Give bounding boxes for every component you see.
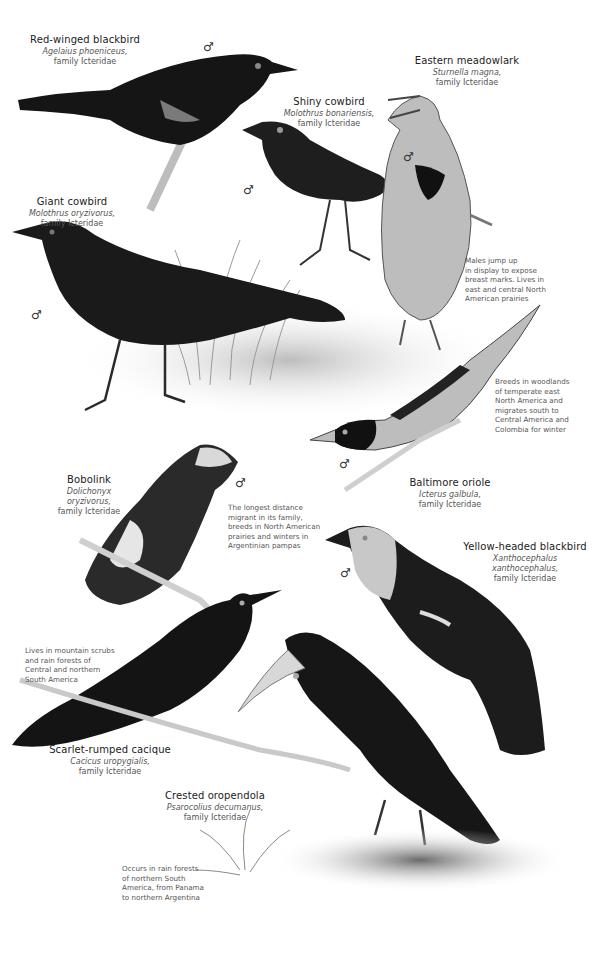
common-name: Crested oropendola <box>160 790 270 803</box>
scientific-name: Icterus galbula, <box>400 490 500 500</box>
family-name: family Icteridae <box>278 119 380 129</box>
common-name: Red-winged blackbird <box>30 34 140 47</box>
note-crested-oropendola: Occurs in rain forests of northern South… <box>122 864 204 902</box>
family-name: family Icteridae <box>30 57 140 67</box>
note-eastern-meadowlark: Males jump up in display to expose breas… <box>465 256 546 304</box>
male-symbol-icon: ♂ <box>340 566 351 580</box>
label-scarlet-rumped-cacique: Scarlet-rumped cacique Cacicus uropygial… <box>48 744 172 777</box>
male-symbol-icon: ♂ <box>31 308 42 322</box>
label-giant-cowbird: Giant cowbird Molothrus oryzivorus, fami… <box>22 196 122 229</box>
scientific-name: Xanthocephalus xanthocephalus, <box>460 554 590 574</box>
male-symbol-icon: ♂ <box>235 476 246 490</box>
male-symbol-icon: ♂ <box>339 457 350 471</box>
note-scarlet-rumped-cacique: Lives in mountain scrubs and rain forest… <box>25 646 115 684</box>
shiny-cowbird-illustration <box>242 121 388 265</box>
label-shiny-cowbird: Shiny cowbird Molothrus bonariensis, fam… <box>278 96 380 129</box>
scientific-name: Sturnella magna, <box>412 68 522 78</box>
common-name: Shiny cowbird <box>278 96 380 109</box>
common-name: Eastern meadowlark <box>412 55 522 68</box>
common-name: Yellow-headed blackbird <box>460 541 590 554</box>
family-name: family Icteridae <box>460 574 590 584</box>
male-symbol-icon: ♂ <box>243 183 254 197</box>
note-baltimore-oriole: Breeds in woodlands of temperate east No… <box>495 377 570 434</box>
male-symbol-icon: ♂ <box>403 150 414 164</box>
label-red-winged-blackbird: Red-winged blackbird Agelaius phoeniceus… <box>30 34 140 67</box>
common-name: Bobolink <box>44 474 134 487</box>
label-crested-oropendola: Crested oropendola Psarocolius decumanus… <box>160 790 270 823</box>
label-eastern-meadowlark: Eastern meadowlark Sturnella magna, fami… <box>412 55 522 88</box>
family-name: family Icteridae <box>44 507 134 517</box>
common-name: Baltimore oriole <box>400 477 500 490</box>
common-name: Giant cowbird <box>22 196 122 209</box>
family-name: family Icteridae <box>400 500 500 510</box>
label-yellow-headed-blackbird: Yellow-headed blackbird Xanthocephalus x… <box>460 541 590 584</box>
field-guide-plate: Red-winged blackbird Agelaius phoeniceus… <box>0 0 599 960</box>
scientific-name: Molothrus bonariensis, <box>278 109 380 119</box>
note-bobolink: The longest distance migrant in its fami… <box>228 503 320 551</box>
family-name: family Icteridae <box>48 767 172 777</box>
scientific-name: Agelaius phoeniceus, <box>30 47 140 57</box>
label-baltimore-oriole: Baltimore oriole Icterus galbula, family… <box>400 477 500 510</box>
male-symbol-icon: ♂ <box>203 40 214 54</box>
family-name: family Icteridae <box>160 813 270 823</box>
scientific-name: Psarocolius decumanus, <box>160 803 270 813</box>
common-name: Scarlet-rumped cacique <box>48 744 172 757</box>
label-bobolink: Bobolink Dolichonyx oryzivorus, family I… <box>44 474 134 517</box>
scientific-name: Cacicus uropygialis, <box>48 757 172 767</box>
family-name: family Icteridae <box>22 219 122 229</box>
scientific-name: Molothrus oryzivorus, <box>22 209 122 219</box>
family-name: family Icteridae <box>412 78 522 88</box>
mossy-branch <box>270 828 570 892</box>
scientific-name: Dolichonyx oryzivorus, <box>44 487 134 507</box>
